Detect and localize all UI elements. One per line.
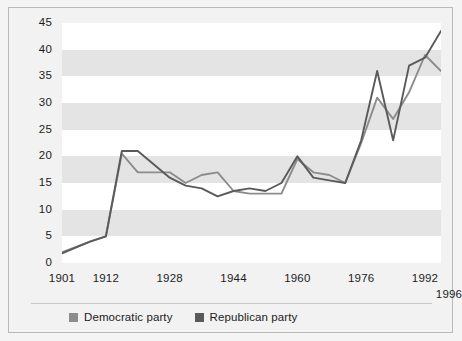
y-axis-tick-label: 30 — [39, 97, 52, 109]
x-axis-tick-label: 1996 — [436, 289, 462, 301]
legend-entry[interactable]: Democratic party — [69, 311, 173, 323]
x-axis-tick-label: 1992 — [412, 273, 438, 285]
plot-area — [62, 23, 441, 263]
y-axis-tick-label: 10 — [39, 204, 52, 216]
x-axis-tick-label: 1912 — [93, 273, 119, 285]
x-axis-tick-label: 1976 — [348, 273, 374, 285]
legend-color-swatch — [69, 313, 78, 322]
y-axis-tick-label: 35 — [39, 70, 52, 82]
legend-label: Democratic party — [84, 311, 173, 323]
x-axis-tick-label: 1944 — [220, 273, 246, 285]
x-axis-tick-label: 1901 — [49, 273, 75, 285]
y-axis-tick-label: 45 — [39, 17, 52, 29]
legend-divider — [31, 303, 432, 304]
y-axis: 051015202530354045 — [9, 23, 58, 263]
legend-entry[interactable]: Republican party — [195, 311, 298, 323]
y-axis-tick-label: 20 — [39, 150, 52, 162]
legend-label: Republican party — [210, 311, 298, 323]
data-series-line — [62, 55, 441, 252]
chart-lines — [62, 23, 441, 263]
y-axis-tick-label: 15 — [39, 177, 52, 189]
y-axis-tick-label: 0 — [45, 257, 52, 269]
y-axis-tick-label: 25 — [39, 124, 52, 136]
y-axis-tick-label: 40 — [39, 44, 52, 56]
legend-color-swatch — [195, 313, 204, 322]
y-axis-tick-label: 5 — [45, 230, 52, 242]
data-series-line — [62, 31, 441, 253]
x-axis-tick-label: 1960 — [284, 273, 310, 285]
chart-figure: 051015202530354045 190119121928194419601… — [8, 7, 453, 333]
x-axis-tick-label: 1928 — [157, 273, 183, 285]
chart-legend: Democratic partyRepublican party — [31, 305, 431, 329]
